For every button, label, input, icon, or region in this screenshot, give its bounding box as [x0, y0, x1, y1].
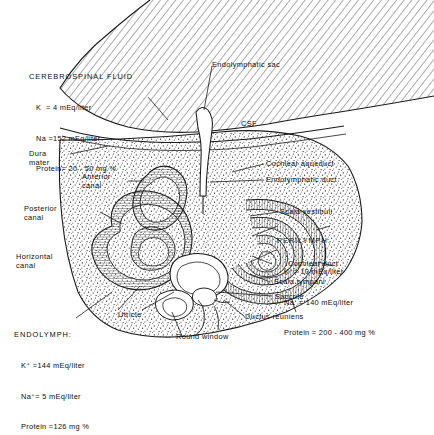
- label-round-window: Round window: [176, 332, 229, 341]
- label-anterior-canal: Anterior canal: [82, 172, 111, 191]
- perilymph-heading: PERILYMPH:: [277, 236, 375, 246]
- label-dura-mater: Dura mater: [29, 149, 50, 168]
- label-scala-vestibuli: Scala vestibuli: [280, 207, 333, 216]
- csf-line-2: Na =152 mEq/liter: [29, 134, 133, 144]
- perilymph-line-1: K⁺= 10 mEq/liter: [277, 267, 375, 277]
- label-saccule: Saccule: [275, 292, 304, 301]
- label-cochlear-aqueduct: Cochlear aqueduct: [266, 159, 334, 168]
- label-csf: CSF: [241, 119, 257, 128]
- label-utricle: Utricle: [118, 310, 141, 319]
- label-horizontal-canal: Horizontal canal: [16, 252, 53, 271]
- csf-line-1: K = 4 mEq/liter: [29, 103, 133, 113]
- label-cochlear-duct: Cochlear duct: [288, 259, 338, 268]
- label-endolymphatic-sac: Endolymphatic sac: [212, 60, 280, 69]
- label-ductus-reuniens: Ductus reuniens: [245, 312, 304, 321]
- perilymph-line-3: Protein = 200 - 400 mg %: [277, 328, 375, 338]
- label-posterior-canal: Posterior canal: [24, 204, 57, 223]
- endolymph-line-2: Na⁺= 5 mEq/liter: [14, 392, 89, 402]
- label-scala-tympani: Scala tympani: [274, 277, 325, 286]
- endolymph-block: ENDOLYMPH: K⁺ =144 mEq/liter Na⁺= 5 mEq/…: [14, 310, 89, 435]
- label-endolymphatic-duct: Endolymphatic duct: [266, 175, 337, 184]
- endolymph-line-3: Protein =126 mg %: [14, 422, 89, 432]
- endolymph-line-1: K⁺ =144 mEq/liter: [14, 361, 89, 371]
- endolymph-heading: ENDOLYMPH:: [14, 330, 89, 340]
- csf-heading: CEREBROSPINAL FLUID: [29, 72, 133, 82]
